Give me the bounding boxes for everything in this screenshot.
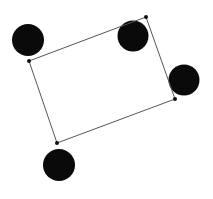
filled-circle-2 — [118, 21, 149, 52]
filled-circle-3 — [169, 65, 200, 96]
filled-circle-4 — [43, 149, 75, 181]
vertex-handle-2 — [144, 15, 148, 19]
filled-circle-1 — [12, 24, 44, 56]
diagram-canvas — [0, 0, 213, 199]
vertex-handle-1 — [27, 59, 31, 63]
vertex-handle-4 — [55, 141, 59, 145]
vertex-group — [27, 15, 177, 145]
vertex-handle-3 — [173, 97, 177, 101]
rotated-rectangle-outline — [29, 17, 175, 143]
